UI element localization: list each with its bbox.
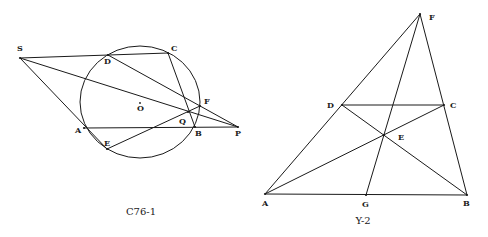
point-d [341, 104, 343, 106]
point-g [365, 194, 367, 196]
label-e: E [398, 132, 404, 142]
point-e [383, 134, 385, 136]
caption-y-2: Y-2 [354, 215, 370, 226]
label-e: E [104, 138, 110, 148]
label-a: A [261, 198, 269, 208]
label-p: P [235, 128, 241, 138]
circle-o [80, 46, 200, 158]
label-b: B [463, 198, 470, 208]
label-d: D [104, 56, 111, 66]
point-s [19, 57, 21, 59]
segment-sc [20, 53, 168, 58]
segment-ac [265, 105, 444, 194]
point-c [167, 52, 169, 54]
point-f [199, 105, 201, 107]
point-q [187, 111, 189, 113]
label-b: B [195, 128, 202, 138]
point-f [419, 13, 421, 15]
right-segments [265, 14, 467, 195]
label-f: F [204, 96, 210, 106]
point-a [264, 193, 266, 195]
label-q: Q [179, 116, 186, 126]
label-f: F [429, 12, 435, 22]
label-d: D [327, 100, 334, 110]
label-s: S [17, 43, 23, 53]
point-a [83, 127, 85, 129]
segment-af [265, 14, 420, 194]
label-c: C [450, 100, 456, 110]
geometry-figures: SDCFQBPAE O C76-1 FDCEAGB Y-2 [0, 0, 488, 237]
figure-c76-1: SDCFQBPAE O C76-1 [17, 43, 241, 217]
segment-db [342, 105, 467, 195]
right-points: FDCEAGB [261, 12, 470, 209]
caption-c76-1: C76-1 [126, 206, 156, 217]
point-e [106, 148, 108, 150]
label-a: A [74, 125, 82, 135]
point-b [466, 194, 468, 196]
label-g: G [362, 199, 369, 209]
figure-y-2: FDCEAGB Y-2 [261, 12, 470, 226]
label-o: O [137, 103, 144, 113]
label-c: C [171, 43, 177, 53]
segment-ap [84, 127, 238, 128]
left-points: SDCFQBPAE [17, 43, 241, 150]
point-c [443, 104, 445, 106]
